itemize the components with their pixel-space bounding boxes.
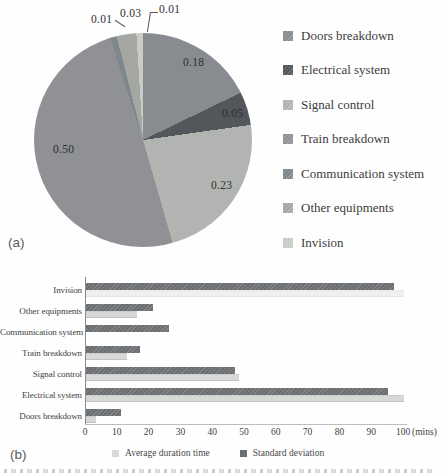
pie-value-label-other: 0.03 [120,7,141,19]
pie-legend-label: Train breakdown [301,131,390,147]
bar-avg [86,353,127,360]
pie-value-label-invision: 0.01 [159,3,180,15]
bar-avg [86,311,137,318]
bar-legend-label: Average duration time [125,448,210,458]
x-axis-tick-label: 90 [359,427,383,437]
bar-sd [86,283,394,290]
legend-swatch-icon [283,134,293,144]
pie-legend-item: Doors breakdown [283,29,424,42]
bar-category-label: Communication system [0,327,82,337]
bar-sd [86,367,235,374]
pie-value-label-doors: 0.18 [183,56,204,68]
pie-leader-line-invision-h [150,12,158,13]
legend-swatch-icon [283,31,293,41]
legend-swatch-icon [283,100,293,110]
bar-legend-label: Standard deviation [253,448,325,458]
pie-leader-line-invision-v [147,12,151,32]
pie-value-label-signal: 0.23 [211,179,232,191]
bar-category-label: Signal control [0,369,82,379]
bar-sd [86,304,153,311]
bar-legend: Average duration timeStandard deviation [112,448,324,458]
pie-legend-label: Invision [301,235,344,251]
x-axis-unit: (mins) [412,427,437,437]
x-axis-tick-label: 30 [168,427,192,437]
pie-legend-label: Other equipments [301,200,394,216]
pie-legend-label: Signal control [301,97,374,113]
bar-avg [86,395,404,402]
legend-swatch-icon [112,450,119,457]
x-axis-tick-label: 40 [200,427,224,437]
pie-legend-item: Other equipments [283,202,424,215]
bar-avg [86,290,404,297]
cropped-caption [4,469,436,473]
pie-legend-item: Signal control [283,98,424,111]
legend-swatch-icon [283,238,293,248]
panel-b-label: (b) [10,447,27,462]
bar-category-label: Other equipments [0,306,82,316]
pie-value-label-electrical: 0.05 [222,107,243,119]
pie-legend-item: Electrical system [283,64,424,77]
bar-avg [86,374,239,381]
bar-x-axis [85,424,407,425]
legend-swatch-icon [283,169,293,179]
pie-legend-label: Doors breakdown [301,28,394,44]
legend-swatch-icon [240,450,247,457]
bar-category-label: Invision [0,285,82,295]
pie-legend-item: Train breakdown [283,133,424,146]
bar-category-label: Doors breakdown [0,411,82,421]
pie-legend: Doors breakdownElectrical systemSignal c… [283,29,424,249]
legend-swatch-icon [283,65,293,75]
x-axis-tick-label: 60 [264,427,288,437]
pie-value-label-communication: 0.01 [91,13,112,25]
pie-chart [34,33,252,247]
pie-legend-label: Communication system [301,166,424,182]
bar-category-label: Electrical system [0,390,82,400]
x-axis-tick-label: 50 [232,427,256,437]
legend-swatch-icon [283,203,293,213]
bar-sd [86,325,169,332]
bar-legend-item: Standard deviation [240,448,325,458]
x-axis-tick-label: 20 [137,427,161,437]
x-axis-tick-label: 80 [327,427,351,437]
panel-a-label: (a) [8,235,25,250]
x-axis-tick-label: 0 [73,427,97,437]
x-axis-tick-label: 70 [296,427,320,437]
pie-legend-item: Invision [283,236,424,249]
bar-sd [86,388,388,395]
bar-category-label: Train breakdown [0,348,82,358]
pie-value-label-train: 0.50 [53,143,74,155]
bar-sd [86,346,140,353]
pie-legend-label: Electrical system [301,62,390,78]
bar-avg [86,416,96,423]
pie-leader-line-communication [115,20,126,27]
figure: 0.18 0.05 0.23 0.50 0.01 0.03 0.01 Doors… [0,0,443,475]
x-axis-tick-label: 10 [105,427,129,437]
pie-legend-item: Communication system [283,167,424,180]
bar-legend-item: Average duration time [112,448,210,458]
bar-sd [86,409,121,416]
